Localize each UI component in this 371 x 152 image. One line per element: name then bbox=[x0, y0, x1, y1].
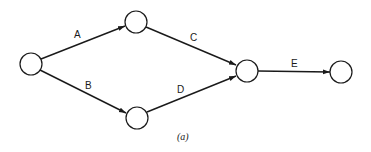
node-3 bbox=[126, 107, 148, 129]
node-1 bbox=[20, 53, 42, 75]
node-5 bbox=[330, 61, 352, 83]
node-2 bbox=[125, 11, 147, 33]
edge-label-a: A bbox=[74, 29, 81, 40]
edge-label-e: E bbox=[291, 58, 298, 69]
edge-label-c: C bbox=[190, 32, 197, 43]
network-diagram: A B C D E (a) bbox=[0, 0, 371, 152]
edge-b bbox=[40, 70, 126, 113]
edge-label-d: D bbox=[177, 84, 184, 95]
figure-caption: (a) bbox=[177, 131, 189, 143]
edge-a bbox=[41, 26, 125, 59]
edge-d bbox=[147, 76, 236, 112]
edge-label-b: B bbox=[85, 80, 92, 91]
node-4 bbox=[236, 60, 258, 82]
edge-e bbox=[258, 71, 330, 72]
